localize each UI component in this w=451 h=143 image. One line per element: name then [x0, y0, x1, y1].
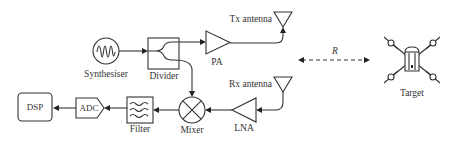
power-divider-icon	[148, 42, 179, 60]
drone-quadcopter-icon	[384, 37, 440, 83]
filter-label: Filter	[130, 125, 151, 135]
range-label: R	[332, 47, 338, 57]
synthesiser-label: Synthesiser	[84, 70, 128, 80]
mixer-block	[179, 97, 205, 123]
pa-block	[206, 31, 230, 54]
divider-label: Divider	[149, 72, 178, 82]
rx-antenna-label: Rx antenna	[229, 80, 272, 90]
radar-block-diagram: Synthesiser Divider PA Tx antenna Rx ant…	[0, 0, 451, 143]
pa-label: PA	[211, 58, 222, 68]
sine-wave-icon	[97, 46, 115, 57]
tx-antenna-label: Tx antenna	[230, 15, 272, 25]
rx-antenna	[274, 77, 292, 92]
tx-antenna	[274, 12, 292, 27]
adc-label: ADC	[79, 104, 98, 113]
filter-waves-icon	[130, 103, 148, 118]
mixer-label: Mixer	[180, 126, 203, 136]
synthesiser-block	[93, 38, 119, 64]
dsp-label: DSP	[27, 103, 44, 112]
divider-block	[148, 38, 179, 69]
lna-label: LNA	[234, 124, 254, 134]
target-label: Target	[400, 89, 424, 99]
lna-block	[232, 98, 256, 122]
range-arrow	[298, 57, 370, 63]
filter-block	[127, 97, 153, 123]
